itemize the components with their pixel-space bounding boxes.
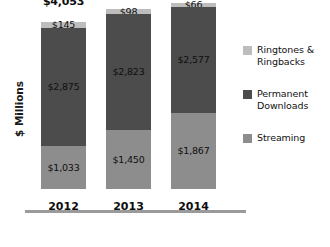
bar-stack: $98 $2,823 $1,450 [106, 9, 151, 189]
chart-legend: Ringtones & Ringbacks Permanent Download… [243, 44, 330, 165]
segment-value-label: $2,577 [177, 55, 209, 65]
segment-value-label: $2,823 [112, 67, 144, 77]
segment-value-label: $1,450 [112, 155, 144, 165]
plot-area: $4,053 $145 $2,875 $1,033 2012 $4,370 $9… [0, 0, 252, 225]
legend-label: Permanent Downloads [257, 88, 330, 111]
segment-streaming[interactable]: $1,033 [41, 146, 86, 189]
segment-permanent-downloads[interactable]: $2,577 [171, 7, 216, 113]
legend-swatch-icon [243, 134, 252, 143]
bar-stack: $145 $2,875 $1,033 [41, 22, 86, 189]
bar-stack: $66 $2,577 $1,867 [171, 3, 216, 189]
legend-item-streaming[interactable]: Streaming [243, 132, 330, 144]
legend-item-ringtones-ringbacks[interactable]: Ringtones & Ringbacks [243, 44, 330, 67]
bar-total-label: $4,053 [43, 0, 84, 7]
segment-value-label: $1,867 [177, 146, 209, 156]
segment-value-label: $2,875 [47, 82, 79, 92]
segment-permanent-downloads[interactable]: $2,823 [106, 14, 151, 130]
legend-label: Streaming [257, 132, 305, 144]
legend-swatch-icon [243, 90, 252, 99]
segment-value-label: $1,033 [47, 163, 79, 173]
legend-item-permanent-downloads[interactable]: Permanent Downloads [243, 88, 330, 111]
segment-streaming[interactable]: $1,450 [106, 130, 151, 189]
legend-swatch-icon [243, 46, 252, 55]
legend-label: Ringtones & Ringbacks [257, 44, 330, 67]
x-axis-baseline [25, 210, 246, 213]
segment-permanent-downloads[interactable]: $2,875 [41, 28, 86, 146]
segment-streaming[interactable]: $1,867 [171, 113, 216, 189]
stacked-bar-chart: $ Millions $4,053 $145 $2,875 $1,033 201… [0, 0, 330, 247]
